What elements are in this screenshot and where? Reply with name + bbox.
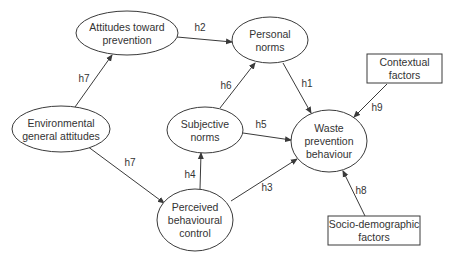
edge-label: h7 [124,157,136,168]
node-personal-norms: Personalnorms [232,17,308,63]
edge-h7b: h7 [87,146,164,203]
arrow-icon [200,153,201,189]
edge-h3: h3 [231,159,297,201]
edge-label: h1 [301,78,313,89]
waste-prevention-model-diagram: h2h7h7h6h1h5h4h3h9h8 Attitudes towardpre… [0,0,454,257]
node-label-line: Subjective [181,118,230,130]
arrow-icon [177,37,232,42]
node-label-line: Waste [314,122,344,134]
edge-label: h8 [355,185,367,196]
node-contextual: Contextualfactors [367,54,442,83]
node-label-line: factors [389,69,421,81]
edge-label: h6 [220,80,232,91]
edge-label: h4 [184,169,196,180]
node-label-line: Environmental [27,117,94,129]
edge-h4: h4 [184,153,201,189]
node-label-line: Contextual [379,56,429,68]
edge-label: h3 [261,182,273,193]
node-label-line: general attitudes [22,130,100,142]
edge-h6: h6 [220,63,255,108]
edge-label: h2 [194,22,206,33]
edge-h7a: h7 [75,55,112,107]
node-label-line: factors [358,231,390,243]
node-label-line: Perceived [172,201,219,213]
node-attitudes: Attitudes towardprevention [76,11,178,55]
arrow-icon [243,133,291,140]
node-label-line: control [179,227,211,239]
node-subjective-norms: Subjectivenorms [167,107,243,153]
node-label-line: behaviour [306,148,353,160]
node-label-line: Personal [249,28,290,40]
edge-h8: h8 [343,171,367,216]
node-label-line: behavioural [168,214,222,226]
node-label-line: norms [255,41,284,53]
node-label-line: prevention [304,135,353,147]
edge-label: h5 [255,119,267,130]
node-waste-prevention: Wastepreventionbehaviour [291,110,367,172]
edge-label: h9 [371,102,383,113]
node-label-line: Attitudes toward [89,21,164,33]
node-socio-demographic: Socio-demographicfactors [328,216,420,245]
node-environmental: Environmentalgeneral attitudes [12,106,110,152]
edge-h2: h2 [177,22,232,42]
edge-label: h7 [78,73,90,84]
node-label-line: prevention [102,34,151,46]
edge-h1: h1 [283,63,313,113]
arrow-icon [231,159,297,201]
node-label-line: norms [190,131,219,143]
node-perceived-control: Perceivedbehaviouralcontrol [157,189,233,251]
edge-h5: h5 [243,119,291,140]
node-label-line: Socio-demographic [329,218,419,230]
nodes-layer: Attitudes towardpreventionPersonalnormsE… [12,11,442,251]
arrow-icon [87,146,164,203]
edge-h9: h9 [354,84,387,117]
